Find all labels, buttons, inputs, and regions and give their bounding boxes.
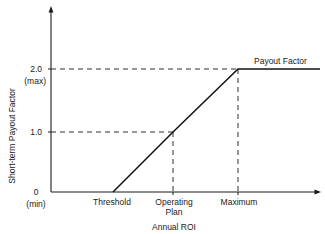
x-tick-label-operating-line1: Operating	[155, 197, 193, 207]
series-label: Payout Factor	[254, 56, 307, 66]
x-axis-title: Annual ROI	[152, 222, 196, 232]
x-tick-label-threshold: Threshold	[93, 197, 131, 207]
reference-lines	[51, 69, 238, 192]
y-axis	[49, 6, 54, 192]
y-axis-title: Short-term Payout Factor	[7, 88, 17, 184]
y-tick-labels: 2.0 (max) 1.0 0 (min)	[24, 64, 46, 209]
payout-factor-line	[113, 69, 320, 192]
x-axis-arrow-icon	[315, 190, 322, 195]
chart-canvas: Payout Factor 2.0 (max) 1.0 0 (min) Shor…	[0, 0, 325, 234]
y-tick-label-max: 2.0	[30, 64, 42, 74]
x-tick-label-operating-line2: Plan	[165, 207, 182, 217]
y-tick-label-mid: 1.0	[30, 127, 42, 137]
y-tick-sublabel-min: (min)	[26, 199, 46, 209]
x-tick-label-maximum: Maximum	[221, 197, 258, 207]
payout-factor-chart: Payout Factor 2.0 (max) 1.0 0 (min) Shor…	[0, 0, 325, 234]
x-tick-labels: Threshold Operating Plan Maximum	[93, 197, 257, 217]
x-axis	[51, 190, 321, 195]
y-tick-sublabel-max: (max)	[24, 76, 46, 86]
y-tick-label-min: 0	[34, 187, 39, 197]
y-axis-arrow-icon	[49, 6, 54, 13]
